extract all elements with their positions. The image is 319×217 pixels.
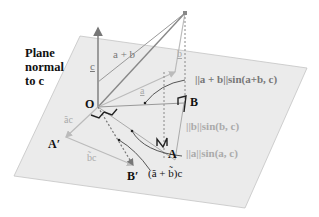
plane-title-line2: normal [25,61,64,74]
point-label-A-prime: A′ [48,138,60,150]
label-sum-tilde-c: (ã + b̃)c [148,168,182,179]
label-b-sin: ||b||sin(b, c) [186,121,239,132]
label-a-tilde-c: ãc [64,115,73,125]
label-a-sin: ||a||sin(a, c) [186,148,238,159]
label-b: b [177,49,182,59]
plane-title-line3: to c [25,75,44,88]
vector-diagram-canvas [0,0,319,217]
label-a: a [140,86,144,96]
label-b-tilde-c: b̃c [87,153,96,163]
point-label-O: O [85,98,94,110]
label-a-plus-b: a + b [113,49,135,60]
label-a-plus-b-sin: ||a + b||sin(a+b, c) [195,74,277,85]
point-label-A: A [168,148,177,160]
plane-title-line1: Plane [25,47,55,60]
point-label-B: B [190,96,198,108]
label-c: c [90,61,95,72]
point-label-B-prime: B′ [127,170,138,182]
